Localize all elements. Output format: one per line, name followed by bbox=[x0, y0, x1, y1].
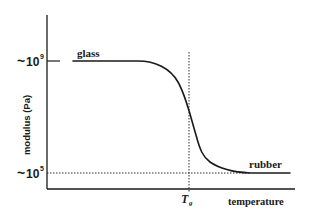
tg-label: T g bbox=[181, 192, 193, 207]
svg-text:~: ~ bbox=[17, 53, 25, 69]
ytick-label-low: ~ 10 5 bbox=[17, 165, 44, 181]
modulus-curve bbox=[73, 61, 290, 173]
x-axis-label: temperature bbox=[228, 196, 284, 207]
svg-text:10: 10 bbox=[26, 55, 40, 69]
y-axis-label: modulus (Pa) bbox=[21, 95, 32, 155]
svg-text:~: ~ bbox=[17, 165, 25, 181]
svg-text:5: 5 bbox=[40, 165, 44, 172]
ytick-label-high: ~ 10 9 bbox=[17, 53, 44, 69]
rubber-label: rubber bbox=[249, 158, 282, 170]
modulus-temperature-diagram: glass rubber ~ 10 9 ~ 10 5 modulus (Pa) … bbox=[0, 0, 313, 218]
glass-label: glass bbox=[77, 47, 100, 59]
svg-text:10: 10 bbox=[26, 167, 40, 181]
svg-text:9: 9 bbox=[40, 53, 44, 60]
svg-text:T: T bbox=[181, 192, 189, 206]
svg-text:g: g bbox=[188, 199, 193, 207]
